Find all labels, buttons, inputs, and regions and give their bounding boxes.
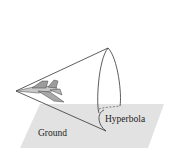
ground-plane [20,104,164,148]
cone-upper-edge [16,48,108,91]
airplane-icon [16,80,64,102]
sonic-boom-cone-diagram: Hyperbola Ground [0,0,173,165]
hyperbola-label: Hyperbola [105,114,145,124]
cone-opening-ellipse [98,48,108,113]
cone-opening-ellipse-back [108,48,121,106]
ground-label: Ground [38,128,67,138]
diagram-canvas [0,0,173,165]
